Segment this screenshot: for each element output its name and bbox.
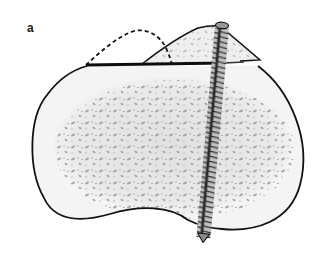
osteotomy-line — [86, 63, 225, 65]
bone-screw-illustration — [0, 0, 329, 274]
screw-tip — [197, 233, 210, 243]
bone-cross-section — [32, 66, 310, 230]
displaced-fragment — [142, 26, 260, 64]
